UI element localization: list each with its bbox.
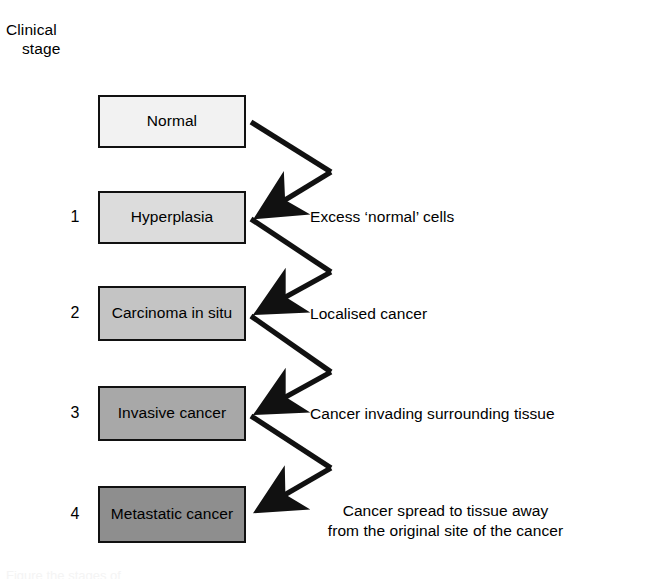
arrow-carcinoma-to-invasive <box>251 316 331 410</box>
stage-box-invasive-cancer: Invasive cancer <box>98 386 246 441</box>
arrow-invasive-to-metastatic <box>251 416 331 508</box>
stage-box-label: Metastatic cancer <box>107 505 237 524</box>
stage-box-carcinoma-in-situ: Carcinoma in situ <box>98 286 246 341</box>
stage-number-3: 3 <box>62 404 88 422</box>
figure-caption-cutoff: Figure the stages of <box>6 569 446 579</box>
stage-number-4: 4 <box>62 505 88 523</box>
stage-box-label: Normal <box>143 112 201 131</box>
axis-title: Clinical stage <box>0 20 110 58</box>
stage-box-normal: Normal <box>98 95 246 148</box>
cancer-progression-diagram: Clinical stage 1 2 3 4 Normal Hyperplasi… <box>0 0 656 579</box>
stage-box-metastatic-cancer: Metastatic cancer <box>98 486 246 543</box>
annotation-carcinoma: Localised cancer <box>310 304 427 324</box>
arrow-normal-to-hyperplasia <box>251 122 331 214</box>
axis-title-line1: Clinical <box>0 20 110 39</box>
stage-number-2: 2 <box>62 304 88 322</box>
annotation-hyperplasia: Excess ‘normal’ cells <box>310 207 454 227</box>
axis-title-line2: stage <box>0 39 110 58</box>
stage-box-label: Hyperplasia <box>127 208 217 227</box>
arrow-hyperplasia-to-carcinoma <box>251 219 331 310</box>
stage-box-hyperplasia: Hyperplasia <box>98 191 246 244</box>
stage-box-label: Invasive cancer <box>114 404 230 423</box>
annotation-invasive: Cancer invading surrounding tissue <box>310 404 555 424</box>
stage-box-label: Carcinoma in situ <box>108 304 237 323</box>
stage-number-1: 1 <box>62 208 88 226</box>
annotation-metastatic: Cancer spread to tissue away from the or… <box>293 501 598 541</box>
